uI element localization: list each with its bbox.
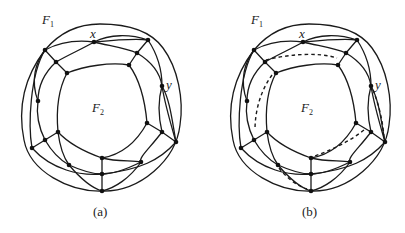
face-label-f2-b: F2	[300, 100, 313, 117]
face-label-f1-a: F1	[41, 12, 54, 29]
panel-a: F1 x y F2 (a)	[22, 12, 182, 219]
dashed-path-left	[255, 75, 272, 130]
caption-b: (b)	[302, 204, 317, 219]
vertex-label-y-a: y	[164, 77, 172, 92]
panel-b: F1 x y F2 (b)	[231, 12, 391, 219]
face-label-f1-b: F1	[250, 12, 263, 29]
vertex-label-x-b: x	[298, 26, 305, 41]
caption-a: (a)	[93, 204, 107, 219]
dashed-path-bottom-right	[315, 130, 364, 156]
face-label-f2-a: F2	[91, 100, 104, 117]
vertex-label-y-b: y	[373, 77, 381, 92]
figure-canvas: F1 x y F2 (a) F1 x y F2 (b)	[0, 0, 405, 233]
vertex-label-x-a: x	[89, 26, 96, 41]
